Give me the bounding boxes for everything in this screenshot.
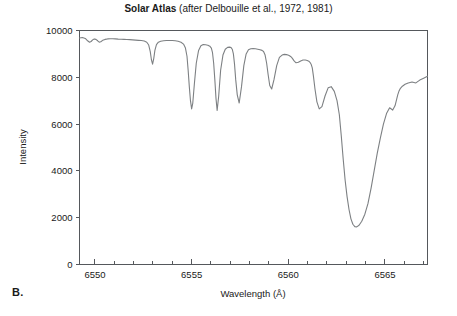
spectrum-line: [80, 38, 428, 227]
x-tick-label: 6555: [181, 269, 202, 280]
plot-frame: [80, 31, 428, 265]
x-tick-label: 6550: [84, 269, 105, 280]
y-tick-label: 6000: [51, 119, 72, 130]
y-tick-label: 4000: [51, 165, 72, 176]
panel-label: B.: [12, 286, 23, 298]
y-tick-label: 8000: [51, 72, 72, 83]
plot-axes: [76, 31, 428, 265]
x-tick-label: 6565: [374, 269, 395, 280]
spectrum-plot: 02000400060008000100006550655565606565 I…: [0, 0, 457, 316]
y-tick-label: 10000: [46, 25, 72, 36]
y-tick-label: 0: [67, 259, 72, 270]
figure-panel: Solar Atlas (after Delbouille et al., 19…: [0, 0, 457, 316]
y-tick-label: 2000: [51, 212, 72, 223]
y-axis-title: Intensity: [17, 129, 28, 165]
x-tick-label: 6560: [278, 269, 299, 280]
x-axis-title: Wavelength (Å): [220, 288, 285, 299]
